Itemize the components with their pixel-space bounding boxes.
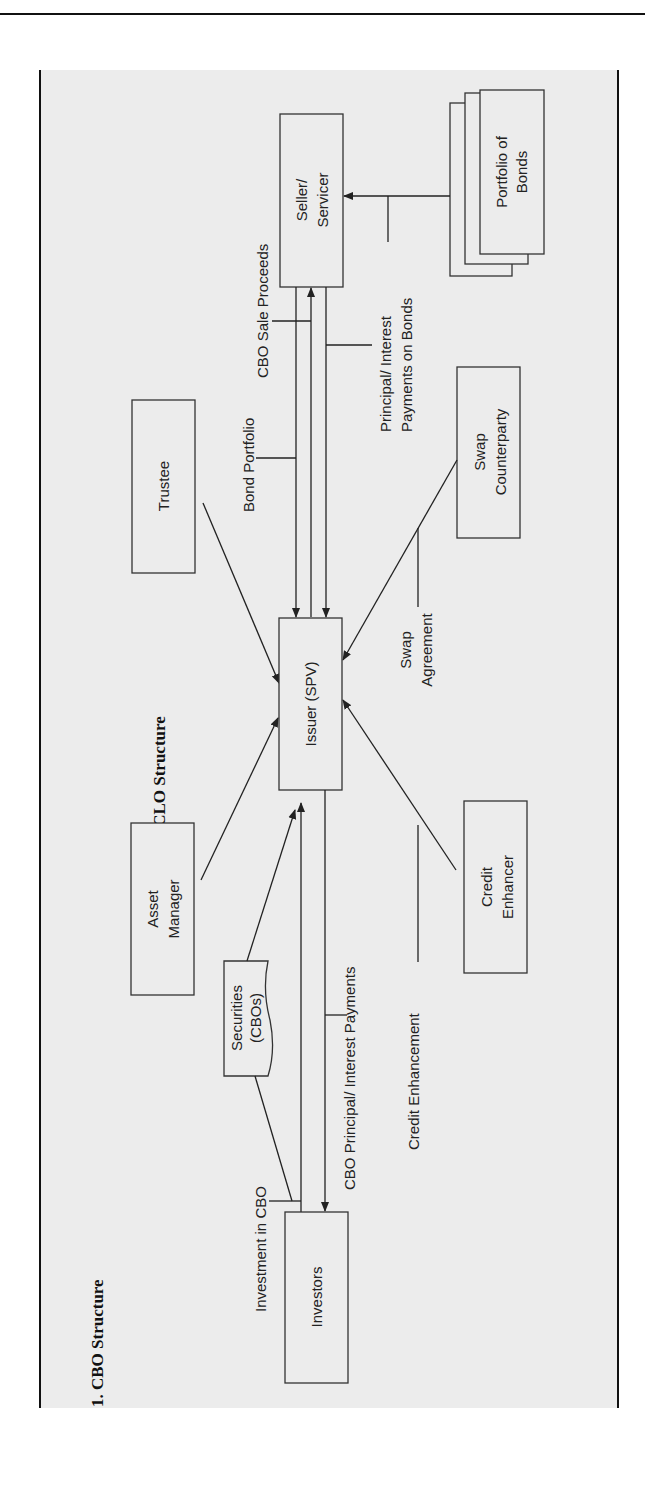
svg-text:Bonds: Bonds — [513, 151, 530, 194]
investment-in-cbo-label: Investment in CBO — [252, 1186, 269, 1312]
securities-cbos-node: Securities (CBOs) — [224, 961, 273, 1076]
swap-counterparty-node: Swap Counterparty — [457, 367, 520, 538]
svg-text:Issuer (SPV): Issuer (SPV) — [302, 661, 319, 746]
cbo-pi-payments-label: CBO Principal/ Interest Payments — [341, 967, 358, 1190]
asset-manager-node: Asset Manager — [131, 823, 194, 995]
issuer-spv-node: Issuer (SPV) — [279, 618, 342, 790]
svg-text:Seller/: Seller/ — [293, 178, 310, 221]
cbo-sale-proceeds-label: CBO Sale Proceeds — [254, 244, 271, 378]
pi-payments-bonds-label-2: Payments on Bonds — [398, 298, 415, 432]
svg-text:(CBOs): (CBOs) — [247, 993, 264, 1043]
diagram-canvas: 1. CBO Structure Exhibit 4.1 CBO/CLO Str… — [0, 0, 645, 1498]
section-heading: 1. CBO Structure — [88, 1279, 107, 1407]
credit-enhancer-node: Credit Enhancer — [464, 801, 527, 973]
swap-agreement-label-1: Swap — [397, 631, 414, 669]
svg-text:Counterparty: Counterparty — [492, 408, 509, 495]
investors-node: Investors — [285, 1212, 348, 1383]
svg-text:Securities: Securities — [228, 985, 245, 1051]
svg-text:Asset: Asset — [144, 889, 161, 927]
svg-text:Portfolio of: Portfolio of — [493, 135, 510, 208]
trustee-node: Trustee — [132, 400, 195, 573]
svg-text:Swap: Swap — [471, 433, 488, 471]
swap-agreement-label-2: Agreement — [418, 612, 435, 686]
svg-text:Trustee: Trustee — [155, 461, 172, 511]
svg-text:Servicer: Servicer — [314, 172, 331, 227]
svg-text:Enhancer: Enhancer — [499, 855, 516, 919]
bond-portfolio-label: Bond Portfolio — [240, 418, 257, 512]
svg-text:Credit: Credit — [478, 866, 495, 907]
portfolio-of-bonds-node: Portfolio of Bonds — [450, 90, 544, 276]
svg-text:Manager: Manager — [165, 879, 182, 938]
pi-payments-bonds-label-1: Principal/ Interest — [377, 315, 394, 432]
svg-text:Investors: Investors — [308, 1267, 325, 1328]
credit-enhancement-label: Credit Enhancement — [405, 1012, 422, 1150]
seller-servicer-node: Seller/ Servicer — [280, 114, 343, 287]
